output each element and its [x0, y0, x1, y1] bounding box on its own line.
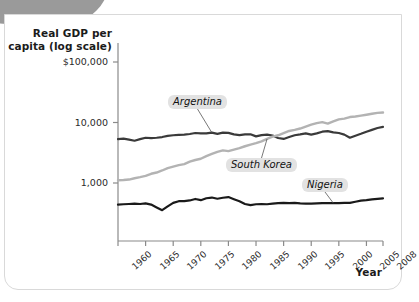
series-label-nigeria: Nigeria [302, 178, 348, 192]
series-label-south-korea: South Korea [226, 158, 297, 172]
y-tick-label: 1,000 [34, 177, 108, 188]
y-tick-label: $100,000 [34, 56, 108, 67]
y-tick-label: 10,000 [34, 117, 108, 128]
y-axis-title: Real GDP per capita (log scale) [8, 27, 112, 53]
series-label-argentina: Argentina [168, 95, 227, 109]
